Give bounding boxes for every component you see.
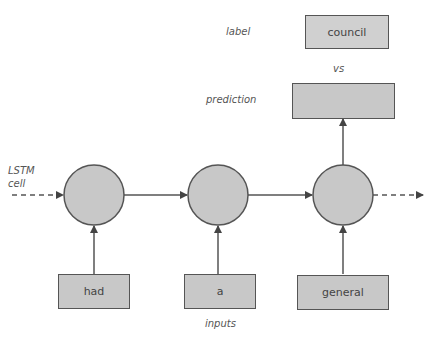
target-word-box: council [305,15,389,49]
prediction-caption: prediction [206,94,256,105]
input-box-3: general [297,275,389,310]
lstm-caption-line2: cell [8,177,35,190]
input-box-2: a [184,274,256,309]
lstm-cell-1 [64,165,124,225]
vs-caption: vs [333,63,344,74]
lstm-caption-line1: LSTM [8,164,35,177]
prediction-box [292,83,395,119]
lstm-cell-3 [313,165,373,225]
target-word: council [328,26,367,39]
input-box-1: had [58,274,130,309]
input-word-3: general [322,286,364,299]
input-word-2: a [217,285,224,298]
lstm-cell-caption: LSTM cell [8,164,35,190]
lstm-cell-2 [188,165,248,225]
input-word-1: had [84,285,105,298]
label-caption: label [226,26,250,37]
inputs-caption: inputs [205,318,236,329]
